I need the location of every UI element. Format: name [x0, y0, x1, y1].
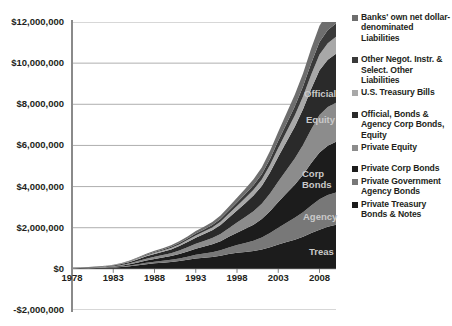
legend-spacer — [352, 45, 452, 54]
legend-item[interactable]: Private Government Agency Bonds — [352, 176, 452, 197]
legend-label: U.S. Treasury Bills — [361, 87, 435, 97]
legend-label: Private Corp Bonds — [361, 163, 439, 173]
legend-item[interactable]: Official, Bonds & Agency Corp Bonds, Equ… — [352, 109, 452, 140]
legend-item[interactable]: Private Equity — [352, 142, 452, 152]
x-axis-tick-label: 1983 — [103, 272, 124, 283]
y-axis-tick-label: $10,000,000 — [11, 58, 64, 68]
legend-label: Other Negot. Instr. & Select. Other Liab… — [361, 54, 452, 85]
legend-label: Private Equity — [361, 142, 417, 152]
legend-swatch-icon — [352, 57, 358, 63]
legend-item[interactable]: U.S. Treasury Bills — [352, 87, 452, 97]
legend-swatch-icon — [352, 90, 358, 96]
x-axis-tick-label: 1993 — [185, 272, 206, 283]
x-axis-tick-label: 1998 — [226, 272, 247, 283]
y-axis-labels: $12,000,000$10,000,000$8,000,000$6,000,0… — [0, 0, 70, 326]
plot-svg — [72, 22, 336, 310]
legend-label: Private Government Agency Bonds — [361, 176, 452, 197]
x-axis-tick-label: 1988 — [144, 272, 165, 283]
legend-label: Banks' own net dollar-denominated Liabil… — [361, 12, 452, 43]
x-axis-tick-label: 1978 — [61, 272, 82, 283]
legend-swatch-icon — [352, 202, 358, 208]
y-axis-tick-label: $12,000,000 — [11, 17, 64, 27]
y-axis-tick-label: $2,000,000 — [16, 223, 64, 233]
x-axis-tick-label: 2008 — [309, 272, 330, 283]
legend-label: Official, Bonds & Agency Corp Bonds, Equ… — [361, 109, 452, 140]
legend-swatch-icon — [352, 15, 358, 21]
chart-legend: Banks' own net dollar-denominated Liabil… — [352, 12, 452, 222]
stacked-area-chart: $12,000,000$10,000,000$8,000,000$6,000,0… — [0, 0, 452, 326]
legend-item[interactable]: Private Treasury Bonds & Notes — [352, 199, 452, 220]
legend-item[interactable]: Banks' own net dollar-denominated Liabil… — [352, 12, 452, 43]
legend-spacer — [352, 100, 452, 109]
y-axis-tick-label: $4,000,000 — [16, 182, 64, 192]
legend-swatch-icon — [352, 179, 358, 185]
y-axis-tick-label: $6,000,000 — [16, 140, 64, 150]
y-axis-line — [71, 20, 73, 312]
legend-swatch-icon — [352, 112, 358, 118]
legend-swatch-icon — [352, 166, 358, 172]
legend-label: Private Treasury Bonds & Notes — [361, 199, 452, 220]
plot-area — [72, 22, 336, 310]
legend-item[interactable]: Other Negot. Instr. & Select. Other Liab… — [352, 54, 452, 85]
y-axis-tick-label: -$2,000,000 — [13, 305, 64, 315]
x-axis-labels: 1978198319881993199820032008 — [72, 272, 342, 288]
x-axis-tick-label: 2003 — [268, 272, 289, 283]
legend-item[interactable]: Private Corp Bonds — [352, 163, 452, 173]
legend-swatch-icon — [352, 145, 358, 151]
y-axis-tick-label: $8,000,000 — [16, 99, 64, 109]
legend-spacer — [352, 154, 452, 163]
